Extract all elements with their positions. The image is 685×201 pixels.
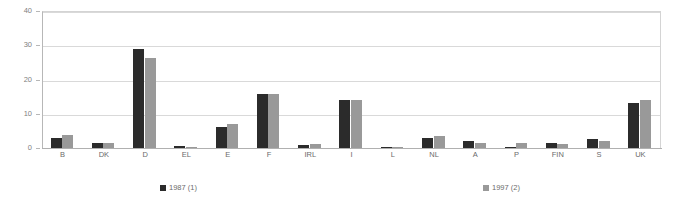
x-axis-tick-label: UK	[620, 150, 660, 160]
bar-chart: 010203040 BDKDELEFIRLILNLAPFINSUK 1987 (…	[0, 0, 685, 201]
legend-item[interactable]: 1997 (2)	[483, 183, 520, 192]
y-axis-tick-mark	[36, 80, 40, 81]
x-axis-tick-label: E	[208, 150, 248, 160]
y-axis-tick-mark	[36, 148, 40, 149]
y-axis-tick-mark	[36, 114, 40, 115]
x-axis-tick-label: DK	[84, 150, 124, 160]
bar	[475, 143, 486, 148]
bar	[599, 141, 610, 148]
bar-group	[83, 11, 124, 148]
bar	[145, 58, 156, 148]
x-axis-tick-label: P	[497, 150, 537, 160]
legend-label: 1987 (1)	[169, 183, 197, 192]
x-axis-tick-label: D	[125, 150, 165, 160]
bar	[640, 100, 651, 148]
x-axis-labels: BDKDELEFIRLILNLAPFINSUK	[42, 150, 661, 164]
bars-layer	[42, 11, 661, 148]
legend-swatch-icon	[160, 185, 166, 191]
bar-group	[455, 11, 496, 148]
bar	[351, 100, 362, 148]
bar	[186, 147, 197, 148]
y-axis-tick-label: 10	[0, 110, 32, 118]
bar	[216, 127, 227, 148]
bar-group	[620, 11, 661, 148]
bar	[381, 147, 392, 148]
bar	[257, 94, 268, 148]
bar-group	[166, 11, 207, 148]
bar	[422, 138, 433, 148]
bar	[92, 143, 103, 148]
y-axis-tick-mark	[36, 11, 40, 12]
y-axis-tick-label: 30	[0, 41, 32, 49]
bar	[557, 144, 568, 148]
legend-label: 1997 (2)	[492, 183, 520, 192]
bar-group	[537, 11, 578, 148]
y-axis-tick-label: 0	[0, 144, 32, 152]
bar-group	[248, 11, 289, 148]
bar-group	[578, 11, 619, 148]
bar	[587, 139, 598, 148]
bar	[268, 94, 279, 148]
x-axis-tick-label: L	[373, 150, 413, 160]
y-axis-tick-mark	[36, 45, 40, 46]
x-axis-tick-label: A	[455, 150, 495, 160]
bar	[227, 124, 238, 148]
x-axis-baseline	[42, 148, 662, 149]
bar-group	[413, 11, 454, 148]
x-axis-tick-label: B	[43, 150, 83, 160]
bar	[546, 143, 557, 148]
bar	[463, 141, 474, 148]
x-axis-tick-label: IRL	[290, 150, 330, 160]
bar	[133, 49, 144, 148]
x-axis-tick-label: EL	[166, 150, 206, 160]
bar-group	[372, 11, 413, 148]
bar-group	[207, 11, 248, 148]
y-axis: 010203040	[0, 0, 40, 201]
bar	[310, 144, 321, 148]
x-axis-tick-label: NL	[414, 150, 454, 160]
bar-group	[331, 11, 372, 148]
bar	[62, 135, 73, 148]
x-axis-tick-label: S	[579, 150, 619, 160]
x-axis-tick-label: I	[332, 150, 372, 160]
bar	[298, 145, 309, 148]
bar	[628, 103, 639, 148]
bar-group	[125, 11, 166, 148]
legend-swatch-icon	[483, 185, 489, 191]
bar	[505, 147, 516, 148]
bar	[339, 100, 350, 148]
bar	[516, 143, 527, 148]
bar-group	[290, 11, 331, 148]
bar	[434, 136, 445, 148]
y-axis-tick-label: 20	[0, 76, 32, 84]
legend-item[interactable]: 1987 (1)	[160, 183, 197, 192]
bar-group	[42, 11, 83, 148]
bar	[103, 143, 114, 148]
bar	[51, 138, 62, 148]
x-axis-tick-label: F	[249, 150, 289, 160]
bar	[174, 146, 185, 148]
bar-group	[496, 11, 537, 148]
bar	[392, 147, 403, 148]
chart-legend: 1987 (1)1997 (2)	[0, 183, 685, 197]
x-axis-tick-label: FIN	[538, 150, 578, 160]
y-axis-tick-label: 40	[0, 7, 32, 15]
